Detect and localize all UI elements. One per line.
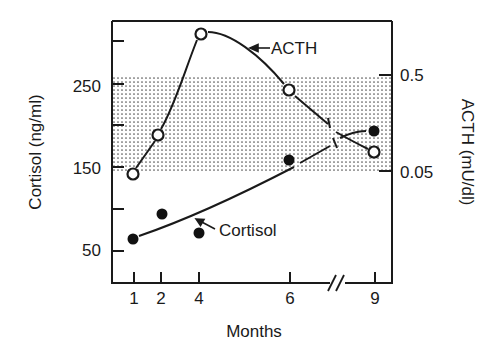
y-tick-250: 250 (73, 77, 101, 96)
x-tick-4: 4 (194, 289, 203, 308)
x-ticks (134, 272, 375, 283)
cortisol-label: Cortisol (219, 221, 277, 240)
y-tick-50: 50 (82, 241, 101, 260)
x-axis-title: Months (226, 322, 282, 341)
x-axis-break-icon (328, 275, 344, 291)
x-tick-1: 1 (129, 289, 138, 308)
x-tick-6: 6 (285, 289, 294, 308)
cortisol-arrow-icon (196, 219, 215, 229)
y-tick-150: 150 (73, 159, 101, 178)
y-axis-title: Cortisol (ng/ml) (26, 94, 45, 209)
y2-tick-0.5: 0.5 (400, 66, 424, 85)
acth-arrow-icon (250, 45, 270, 52)
y2-tick-0.05: 0.05 (400, 163, 433, 182)
x-tick-9: 9 (370, 289, 379, 308)
x-tick-2: 2 (156, 289, 165, 308)
y2-axis-title: ACTH (mU/dl) (458, 99, 477, 206)
chart: ACTH Cortisol 250 150 50 0.5 0.05 1 2 4 … (0, 0, 503, 354)
acth-label: ACTH (271, 39, 317, 58)
normal-range-band (113, 76, 392, 172)
